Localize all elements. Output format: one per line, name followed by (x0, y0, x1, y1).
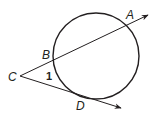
tangent-ray-CD (20, 76, 121, 108)
geometry-diagram: A B C D 1 (0, 0, 154, 114)
label-B: B (42, 48, 50, 62)
secant-ray-CA (20, 15, 148, 76)
label-A: A (125, 8, 134, 22)
label-C: C (8, 70, 17, 84)
angle-1-label: 1 (46, 70, 52, 82)
label-D: D (76, 99, 85, 113)
